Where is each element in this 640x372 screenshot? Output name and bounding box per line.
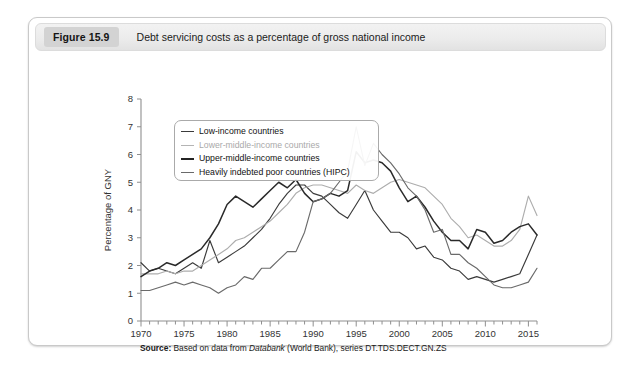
source-database-name: Databank (249, 343, 285, 353)
line-chart: 012345678 197019751980198519901995200020… (29, 51, 613, 347)
figure-caption: Debt servicing costs as a percentage of … (137, 31, 426, 43)
source-label: Source: (140, 343, 171, 353)
y-tick-label: 3 (128, 232, 133, 243)
series-line-low-income (141, 185, 537, 282)
x-tick-label: 1975 (173, 328, 194, 339)
figure-header: Figure 15.9 Debt servicing costs as a pe… (35, 23, 606, 51)
legend-swatch-icon (181, 131, 194, 132)
x-tick-label: 2005 (432, 328, 453, 339)
legend-item-lower-middle-income: Lower-middle-income countries (181, 139, 372, 153)
figure-number-badge: Figure 15.9 (44, 27, 119, 47)
x-tick-label: 1970 (130, 328, 151, 339)
legend-swatch-icon (181, 172, 194, 173)
figure-card: Figure 15.9 Debt servicing costs as a pe… (28, 17, 612, 346)
chart-area: 012345678 197019751980198519901995200020… (29, 51, 613, 347)
legend-label: Heavily indebted poor countries (HIPC) (199, 168, 350, 177)
x-tick-label: 1990 (303, 328, 324, 339)
y-tick-label: 2 (128, 260, 133, 271)
y-tick-label: 4 (128, 204, 133, 215)
y-tick-label: 7 (128, 121, 133, 132)
legend-label: Upper-middle-income countries (199, 154, 320, 163)
chart-legend: Low-income countries Lower-middle-income… (174, 120, 379, 181)
y-tick-label: 6 (128, 149, 133, 160)
x-tick-label: 2010 (475, 328, 496, 339)
source-text-part2: (World Bank), series DT.TDS.DECT.GN.ZS (285, 343, 447, 353)
x-tick-label: 2000 (389, 328, 410, 339)
x-axis-ticks: 1970197519801985199019952000200520102015 (130, 321, 539, 339)
y-tick-label: 0 (128, 315, 133, 326)
source-note: Source: Based on data from Databank (Wor… (140, 343, 447, 353)
legend-item-low-income: Low-income countries (181, 125, 372, 139)
legend-item-hipc: Heavily indebted poor countries (HIPC) (181, 166, 372, 180)
series-line-lower-middle-income (141, 179, 537, 273)
x-tick-label: 1995 (346, 328, 367, 339)
y-axis-title: Percentage of GNY (102, 168, 113, 251)
source-text-part1: Based on data from (171, 343, 249, 353)
y-tick-label: 1 (128, 288, 133, 299)
legend-item-upper-middle-income: Upper-middle-income countries (181, 152, 372, 166)
legend-label: Lower-middle-income countries (199, 141, 320, 150)
legend-swatch-icon (181, 158, 194, 160)
y-axis-ticks: 012345678 (128, 93, 141, 326)
x-tick-label: 2015 (518, 328, 539, 339)
x-tick-label: 1985 (260, 328, 281, 339)
y-tick-label: 5 (128, 177, 133, 188)
y-tick-label: 8 (128, 93, 133, 104)
x-tick-label: 1980 (217, 328, 238, 339)
legend-swatch-icon (181, 145, 194, 146)
legend-label: Low-income countries (199, 127, 284, 136)
